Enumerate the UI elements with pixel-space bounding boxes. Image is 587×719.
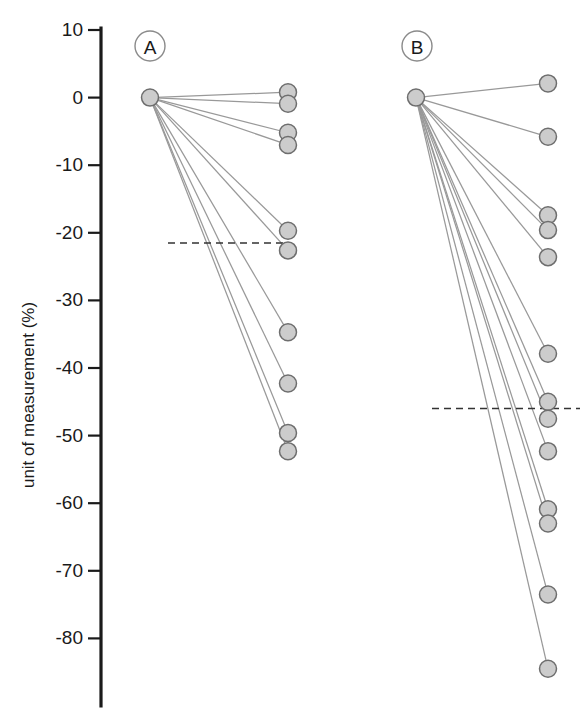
y-axis-tick-label: -60: [56, 492, 83, 513]
panel-b: B: [402, 31, 580, 677]
slope-line: [416, 98, 548, 216]
data-point-marker: [540, 393, 557, 410]
slope-line: [150, 98, 288, 231]
data-point-marker: [540, 586, 557, 603]
slope-line: [416, 98, 548, 354]
slope-line: [150, 98, 288, 384]
panel-label-text: A: [144, 37, 157, 58]
data-point-marker: [280, 222, 297, 239]
slope-line: [150, 98, 288, 333]
slope-line-group: [416, 83, 548, 668]
data-point-marker: [540, 410, 557, 427]
data-point-marker: [280, 375, 297, 392]
data-point-marker: [540, 75, 557, 92]
y-axis-tick-label: -30: [56, 289, 83, 310]
panels-group: AB: [135, 31, 580, 677]
data-point-marker: [280, 324, 297, 341]
y-axis-tick-label: 10: [62, 19, 83, 40]
y-axis-tick-label: -80: [56, 627, 83, 648]
baseline-marker: [142, 89, 159, 106]
baseline-marker: [408, 89, 425, 106]
data-point-marker: [280, 136, 297, 153]
slope-line: [416, 98, 548, 419]
data-point-marker: [540, 345, 557, 362]
panel-a: A: [135, 31, 297, 460]
y-axis-tick-label: 0: [72, 87, 83, 108]
slope-line: [416, 98, 548, 595]
panel-label-text: B: [411, 37, 424, 58]
slope-line: [150, 92, 288, 97]
slope-chart-svg: 100-10-20-30-40-50-60-70-80 unit of meas…: [0, 0, 587, 719]
slope-line: [150, 98, 288, 452]
slope-line: [416, 98, 548, 258]
slope-line-group: [150, 92, 288, 451]
data-point-marker: [540, 128, 557, 145]
figure-root: 100-10-20-30-40-50-60-70-80 unit of meas…: [0, 0, 587, 719]
data-point-marker: [280, 95, 297, 112]
slope-line: [416, 98, 548, 510]
y-axis-tick-label: -20: [56, 222, 83, 243]
data-point-marker: [280, 424, 297, 441]
data-point-marker: [540, 443, 557, 460]
data-point-marker: [540, 222, 557, 239]
slope-line: [416, 98, 548, 452]
slope-line: [150, 98, 288, 433]
y-axis-tick-label: -10: [56, 154, 83, 175]
data-point-marker: [540, 249, 557, 266]
y-axis-tick-label: -40: [56, 357, 83, 378]
data-point-marker: [540, 660, 557, 677]
slope-line: [416, 98, 548, 524]
y-axis-tick-label: -70: [56, 560, 83, 581]
slope-line: [416, 98, 548, 402]
y-axis-tick-group: 100-10-20-30-40-50-60-70-80: [56, 19, 101, 648]
y-axis-tick-label: -50: [56, 425, 83, 446]
data-point-marker: [280, 242, 297, 259]
data-point-marker: [280, 443, 297, 460]
y-axis: 100-10-20-30-40-50-60-70-80: [56, 19, 101, 706]
data-point-marker: [540, 515, 557, 532]
slope-line: [150, 98, 288, 251]
slope-line: [416, 83, 548, 97]
slope-line: [416, 98, 548, 669]
y-axis-title: unit of measurement (%): [19, 302, 38, 488]
